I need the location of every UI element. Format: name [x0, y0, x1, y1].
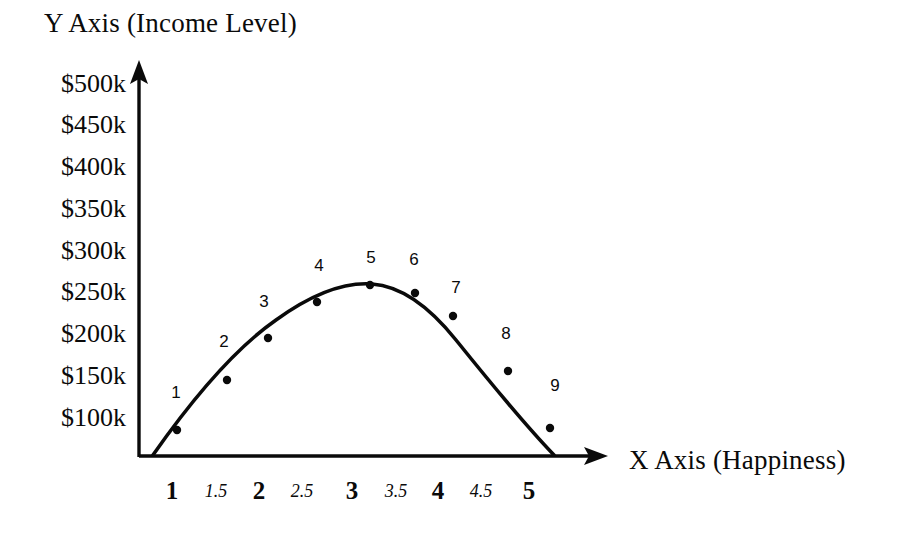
data-point-marker — [223, 376, 231, 384]
data-point-label: 9 — [550, 377, 559, 394]
plot-area — [0, 0, 918, 533]
data-point-marker — [546, 424, 554, 432]
x-axis-tick-label: 3 — [346, 477, 359, 505]
x-axis-tick-label: 1.5 — [205, 477, 228, 505]
data-point-marker — [504, 367, 512, 375]
x-axis-tick-label: 1 — [166, 477, 179, 505]
data-point-label: 1 — [171, 384, 180, 401]
data-point-label: 6 — [409, 251, 418, 268]
data-point-label: 8 — [501, 325, 510, 342]
data-point-label: 4 — [314, 257, 323, 274]
data-point-marker — [264, 334, 272, 342]
data-point-marker — [366, 281, 374, 289]
data-point-marker — [449, 312, 457, 320]
data-point-label: 7 — [451, 279, 460, 296]
data-point-marker — [411, 289, 419, 297]
data-point-label: 2 — [219, 333, 228, 350]
x-axis-tick-label: 4 — [432, 477, 445, 505]
data-point-marker — [313, 298, 321, 306]
parabola-curve — [153, 284, 554, 455]
data-point-label: 5 — [366, 249, 375, 266]
chart-figure: Y Axis (Income Level) X Axis (Happiness)… — [0, 0, 918, 533]
data-point-label: 3 — [259, 293, 268, 310]
x-axis-tick-label: 3.5 — [385, 477, 408, 505]
x-axis-tick-label: 5 — [523, 477, 536, 505]
x-axis-tick-label: 2 — [253, 477, 266, 505]
data-point-marker — [173, 426, 181, 434]
x-axis-tick-label: 2.5 — [291, 477, 314, 505]
x-axis-tick-label: 4.5 — [470, 477, 493, 505]
